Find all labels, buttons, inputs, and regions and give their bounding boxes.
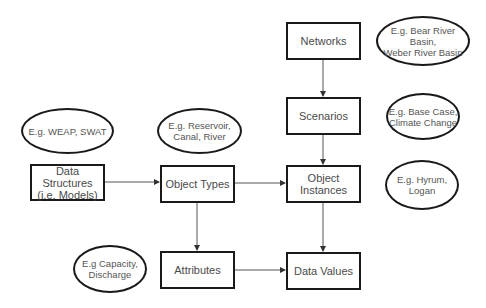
- networks-example-ellipse: E.g. Bear River Basin, Weber River Basin: [376, 16, 470, 66]
- data-values-box: Data Values: [286, 252, 361, 290]
- attributes-example-ellipse: E.g Capacity, Discharge: [73, 245, 147, 293]
- object-types-box: Object Types: [160, 165, 235, 203]
- scenarios-box: Scenarios: [286, 97, 361, 135]
- data-structures-label: Data Structures (i.e. Models): [32, 165, 103, 201]
- instances-example-ellipse: E.g. Hyrum, Logan: [385, 160, 459, 210]
- attributes-example-text: E.g Capacity, Discharge: [82, 258, 138, 280]
- diagram-canvas: Networks Scenarios Object Instances Data…: [0, 0, 486, 308]
- data-values-label: Data Values: [294, 265, 353, 277]
- networks-example-text: E.g. Bear River Basin, Weber River Basin: [378, 25, 468, 58]
- networks-box: Networks: [286, 22, 361, 60]
- scenarios-example-text: E.g. Base Case, Climate Change: [389, 106, 458, 128]
- structures-example-ellipse: E.g. WEAP, SWAT: [21, 108, 114, 154]
- object-types-label: Object Types: [166, 178, 230, 190]
- instances-example-text: E.g. Hyrum, Logan: [397, 174, 447, 196]
- scenarios-example-ellipse: E.g. Base Case, Climate Change: [386, 93, 460, 140]
- structures-example-text: E.g. WEAP, SWAT: [29, 126, 107, 137]
- attributes-label: Attributes: [174, 264, 220, 276]
- attributes-box: Attributes: [160, 251, 235, 289]
- networks-label: Networks: [301, 35, 347, 47]
- object-instances-label: Object Instances: [300, 172, 347, 196]
- data-structures-box: Data Structures (i.e. Models): [30, 164, 105, 201]
- object-instances-box: Object Instances: [286, 165, 361, 203]
- scenarios-label: Scenarios: [299, 110, 348, 122]
- types-example-ellipse: E.g. Reservoir, Canal, River: [157, 108, 242, 154]
- types-example-text: E.g. Reservoir, Canal, River: [168, 120, 230, 142]
